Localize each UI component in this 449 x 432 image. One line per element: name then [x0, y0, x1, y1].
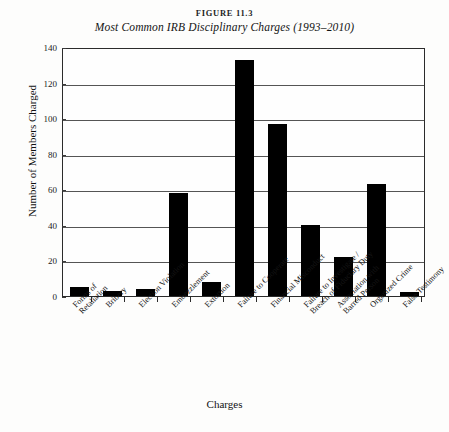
bar [367, 184, 386, 296]
y-tick-mark-120 [62, 84, 66, 85]
y-tick-mark-40 [62, 226, 66, 227]
y-tick-label-40: 40 [48, 221, 57, 231]
x-tick-mark [289, 297, 290, 302]
y-tick-label-20: 20 [48, 256, 57, 266]
x-tick-mark [421, 297, 422, 302]
bar [103, 291, 122, 296]
bar [301, 225, 320, 296]
bar [202, 282, 221, 296]
bar [136, 289, 155, 296]
y-tick-mark-140 [62, 48, 66, 49]
bar [268, 124, 287, 297]
plot-area [62, 48, 425, 297]
x-tick-mark [157, 297, 158, 302]
x-tick-mark [256, 297, 257, 302]
x-tick-mark [388, 297, 389, 302]
x-tick-mark [355, 297, 356, 302]
y-axis-title: Number of Members Charged [26, 41, 38, 261]
y-tick-mark-60 [62, 190, 66, 191]
y-tick-mark-0 [62, 297, 66, 298]
bar [235, 60, 254, 297]
bar [334, 257, 353, 296]
y-tick-label-80: 80 [48, 150, 57, 160]
y-tick-mark-20 [62, 261, 66, 262]
x-tick-mark [190, 297, 191, 302]
y-tick-label-0: 0 [53, 292, 58, 302]
bar [70, 287, 89, 296]
x-tick-mark [223, 297, 224, 302]
bar [400, 292, 419, 296]
figure-page: FIGURE 11.3 Most Common IRB Disciplinary… [0, 0, 449, 432]
y-tick-label-140: 140 [44, 43, 58, 53]
x-tick-mark [322, 297, 323, 302]
y-tick-label-100: 100 [44, 114, 58, 124]
x-axis-title: Charges [0, 398, 449, 410]
y-tick-mark-100 [62, 119, 66, 120]
figure-title: Most Common IRB Disciplinary Charges (19… [0, 21, 449, 33]
bar [169, 193, 188, 296]
x-tick-mark [124, 297, 125, 302]
x-tick-mark [91, 297, 92, 302]
figure-number: FIGURE 11.3 [0, 8, 449, 18]
y-tick-label-60: 60 [48, 185, 57, 195]
y-tick-mark-80 [62, 155, 66, 156]
bars-series [63, 49, 424, 296]
y-tick-label-120: 120 [44, 79, 58, 89]
